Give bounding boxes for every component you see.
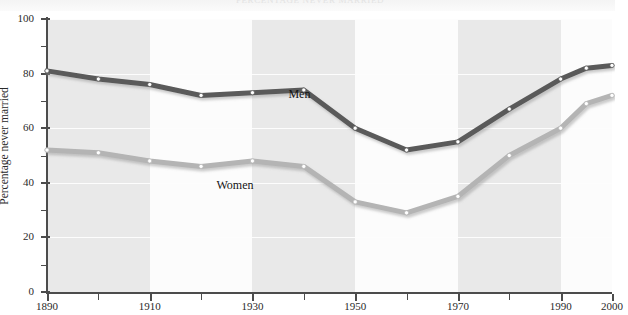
y-axis-tick-major bbox=[41, 127, 50, 129]
y-axis-tick-label: 40 bbox=[8, 177, 34, 187]
y-axis-tick-major bbox=[41, 18, 50, 20]
x-axis-tick-minor bbox=[509, 294, 510, 300]
x-axis-tick-minor bbox=[407, 294, 408, 300]
series-label-women: Women bbox=[217, 178, 254, 193]
x-axis-tick-minor bbox=[304, 294, 305, 300]
y-axis-tick-minor bbox=[41, 101, 48, 102]
y-axis-title: Percentage never married bbox=[0, 21, 10, 271]
x-axis-tick-label: 1990 bbox=[538, 300, 584, 312]
y-axis-tick-label: 80 bbox=[8, 68, 34, 78]
y-axis-tick-minor bbox=[41, 156, 48, 157]
x-axis-tick-label: 1890 bbox=[24, 300, 70, 312]
horizontal-gridlines bbox=[47, 19, 612, 292]
gridline bbox=[47, 237, 612, 238]
x-axis-tick-label: 1910 bbox=[127, 300, 173, 312]
page-running-head: PERCENTAGE NEVER MARRIED bbox=[0, 0, 615, 11]
y-axis-tick-minor bbox=[41, 46, 48, 47]
y-axis-tick-major bbox=[41, 236, 50, 238]
x-axis-line bbox=[46, 292, 612, 294]
y-axis-tick-major bbox=[41, 182, 50, 184]
y-axis-tick-label: 100 bbox=[8, 13, 34, 23]
x-axis-tick-minor bbox=[201, 294, 202, 300]
y-axis-tick-minor bbox=[41, 265, 48, 266]
x-axis-tick-label: 1970 bbox=[435, 300, 481, 312]
y-axis-tick-major bbox=[41, 291, 50, 293]
running-head-text: PERCENTAGE NEVER MARRIED bbox=[150, 0, 470, 5]
x-axis-tick-label: 2000 bbox=[589, 300, 628, 312]
gridline bbox=[47, 74, 612, 75]
y-axis-tick-label: 20 bbox=[8, 231, 34, 241]
y-axis-tick-minor bbox=[41, 210, 48, 211]
gridline bbox=[47, 128, 612, 129]
gridline bbox=[47, 183, 612, 184]
y-axis-tick-label: 0 bbox=[8, 286, 34, 296]
x-axis-tick-label: 1930 bbox=[229, 300, 275, 312]
x-axis-tick-label: 1950 bbox=[332, 300, 378, 312]
y-axis-tick-major bbox=[41, 73, 50, 75]
plot-area bbox=[47, 19, 612, 292]
gridline bbox=[47, 19, 612, 20]
series-label-men: Men bbox=[288, 87, 310, 102]
x-axis-tick-minor bbox=[98, 294, 99, 300]
y-axis-tick-label: 60 bbox=[8, 122, 34, 132]
